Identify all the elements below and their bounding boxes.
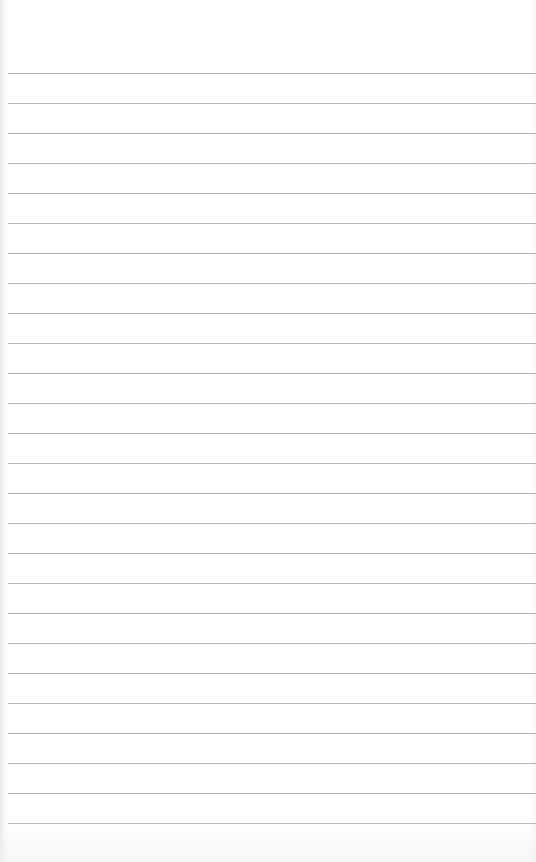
ruled-line — [8, 433, 536, 434]
ruled-line — [8, 463, 536, 464]
ruled-line — [8, 793, 536, 794]
ruled-line — [8, 283, 536, 284]
ruled-line — [8, 223, 536, 224]
ruled-line — [8, 613, 536, 614]
page-bottom-shading — [0, 820, 536, 862]
ruled-line — [8, 703, 536, 704]
ruled-line — [8, 73, 536, 74]
ruled-line — [8, 493, 536, 494]
ruled-line — [8, 343, 536, 344]
ruled-line — [8, 373, 536, 374]
ruled-line — [8, 583, 536, 584]
ruled-line — [8, 733, 536, 734]
ruled-line — [8, 403, 536, 404]
ruled-line — [8, 553, 536, 554]
ruled-line — [8, 313, 536, 314]
ruled-line — [8, 193, 536, 194]
ruled-line — [8, 673, 536, 674]
ruled-line — [8, 253, 536, 254]
ruled-line — [8, 523, 536, 524]
ruled-line — [8, 133, 536, 134]
ruled-line — [8, 643, 536, 644]
ruled-line — [8, 103, 536, 104]
ruled-line — [8, 163, 536, 164]
notepad-page — [0, 0, 536, 862]
ruled-line — [8, 763, 536, 764]
